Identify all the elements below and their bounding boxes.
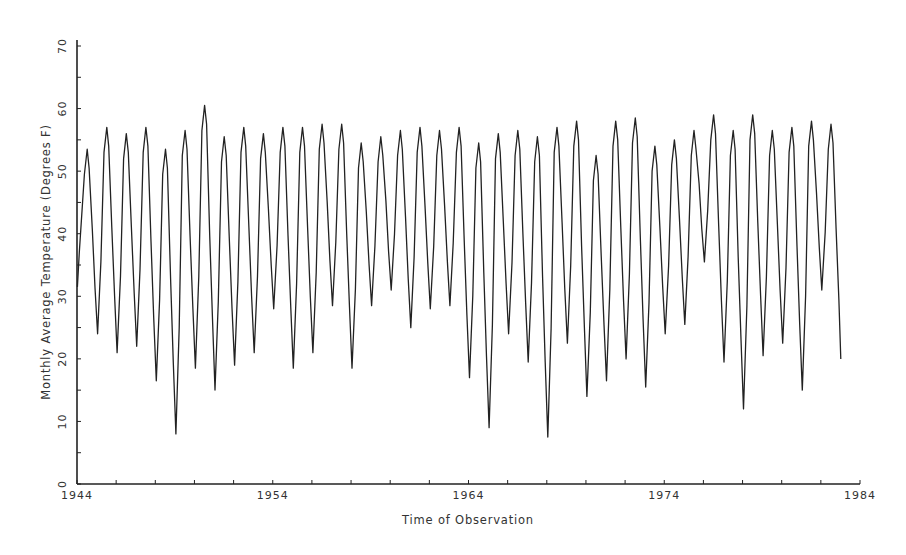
- x-tick-label: 1964: [453, 489, 485, 502]
- y-tick-label: 20: [56, 351, 69, 367]
- y-tick-label: 50: [56, 163, 69, 179]
- y-tick-label: 60: [56, 101, 69, 117]
- x-tick-label: 1974: [648, 489, 680, 502]
- x-axis: 19441954196419741984 Time of Observation: [61, 480, 876, 527]
- x-axis-title: Time of Observation: [401, 513, 534, 527]
- x-tick-label: 1944: [61, 489, 93, 502]
- temperature-line: [77, 105, 840, 437]
- plot-area: [77, 105, 840, 437]
- y-tick-label: 10: [56, 413, 69, 429]
- temperature-time-series-chart: 010203040506070 Monthly Average Temperat…: [0, 0, 906, 555]
- y-tick-label: 40: [56, 226, 69, 242]
- y-tick-label: 30: [56, 288, 69, 304]
- y-tick-label: 70: [56, 38, 69, 54]
- y-axis: 010203040506070 Monthly Average Temperat…: [39, 38, 81, 488]
- y-axis-title: Monthly Average Temperature (Degrees F): [39, 124, 53, 399]
- y-tick-label: 0: [56, 480, 69, 488]
- x-tick-label: 1954: [257, 489, 289, 502]
- x-tick-label: 1984: [844, 489, 876, 502]
